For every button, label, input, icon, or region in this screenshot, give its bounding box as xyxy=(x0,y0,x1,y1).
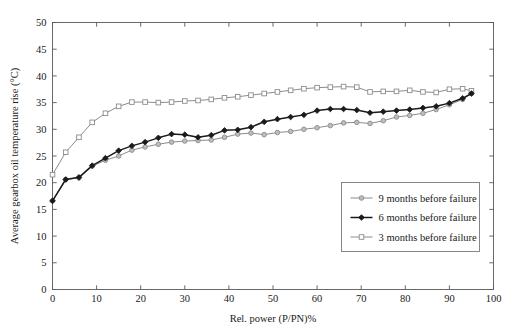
data-point xyxy=(288,114,294,120)
data-point xyxy=(275,130,280,135)
data-point xyxy=(407,88,412,93)
data-point xyxy=(222,95,227,100)
data-point xyxy=(359,196,364,201)
y-tick-label-45: 45 xyxy=(36,44,47,55)
chart-canvas: 0102030405060708090100051015202530354045… xyxy=(0,0,524,335)
x-tick-label-90: 90 xyxy=(444,293,455,304)
y-tick-label-20: 20 xyxy=(36,177,47,188)
data-point xyxy=(209,97,214,102)
data-point xyxy=(196,98,201,103)
data-point xyxy=(381,89,386,94)
data-point xyxy=(235,127,241,133)
figure: 0102030405060708090100051015202530354045… xyxy=(0,0,524,335)
data-point xyxy=(248,124,254,130)
data-point xyxy=(314,108,320,114)
data-point xyxy=(341,84,346,89)
data-point xyxy=(354,107,360,113)
data-point xyxy=(261,119,267,125)
x-tick-label-50: 50 xyxy=(268,293,279,304)
data-point xyxy=(302,127,307,132)
y-tick-label-40: 40 xyxy=(36,71,47,82)
data-point xyxy=(249,131,254,136)
data-point xyxy=(354,120,359,125)
data-point xyxy=(407,113,412,118)
data-point xyxy=(156,100,161,105)
data-point xyxy=(328,85,333,90)
data-point xyxy=(288,129,293,134)
data-point xyxy=(315,85,320,90)
data-point xyxy=(143,100,148,105)
x-tick-label-0: 0 xyxy=(50,293,55,304)
data-point xyxy=(327,106,333,112)
data-point xyxy=(288,88,293,93)
data-point xyxy=(460,86,465,91)
y-axis-title: Average gearbox oil temperature rise (°C… xyxy=(9,67,21,244)
data-point xyxy=(103,111,108,116)
data-point xyxy=(130,100,135,105)
y-tick-label-15: 15 xyxy=(36,204,47,215)
data-point xyxy=(275,90,280,95)
data-point xyxy=(208,132,214,138)
data-point xyxy=(50,172,55,177)
data-point xyxy=(368,121,373,126)
data-point xyxy=(341,121,346,126)
x-tick-label-80: 80 xyxy=(400,293,411,304)
data-point xyxy=(447,87,452,92)
x-tick-label-30: 30 xyxy=(180,293,191,304)
data-point xyxy=(116,148,122,154)
data-point xyxy=(90,120,95,125)
data-point xyxy=(63,150,68,155)
data-point xyxy=(182,132,188,138)
data-point xyxy=(302,86,307,91)
data-point xyxy=(394,115,399,120)
legend-label-1: 9 months before failure xyxy=(379,193,478,204)
y-tick-label-35: 35 xyxy=(36,97,47,108)
data-point xyxy=(169,140,174,145)
x-tick-label-70: 70 xyxy=(356,293,367,304)
data-point xyxy=(183,139,188,144)
data-point xyxy=(262,91,267,96)
series-line xyxy=(53,87,472,175)
y-tick-label-50: 50 xyxy=(36,17,47,28)
data-point xyxy=(368,90,373,95)
data-point xyxy=(169,131,175,137)
data-point xyxy=(262,132,267,137)
data-point xyxy=(394,89,399,94)
x-tick-label-100: 100 xyxy=(486,293,502,304)
data-point xyxy=(235,94,240,99)
y-tick-label-10: 10 xyxy=(36,231,47,242)
data-point xyxy=(183,99,188,104)
data-point xyxy=(341,106,347,112)
data-point xyxy=(328,123,333,128)
data-point xyxy=(275,116,281,122)
data-point xyxy=(381,118,386,123)
y-tick-label-5: 5 xyxy=(41,257,46,268)
data-point xyxy=(301,112,307,118)
data-point xyxy=(421,111,426,116)
data-point xyxy=(142,139,148,145)
x-tick-label-10: 10 xyxy=(91,293,102,304)
data-point xyxy=(359,235,364,240)
y-tick-label-30: 30 xyxy=(36,124,47,135)
data-point xyxy=(394,108,400,114)
data-point xyxy=(77,135,82,140)
data-point xyxy=(380,109,386,115)
data-point xyxy=(116,154,121,159)
data-point xyxy=(116,104,121,109)
x-axis-title: Rel. power (P/PN)% xyxy=(230,313,317,325)
data-point xyxy=(367,110,373,116)
series-3 xyxy=(50,84,474,177)
data-point xyxy=(156,135,162,141)
data-point xyxy=(315,125,320,130)
data-point xyxy=(420,105,426,111)
data-point xyxy=(434,90,439,95)
y-tick-label-25: 25 xyxy=(36,151,47,162)
data-point xyxy=(354,85,359,90)
legend-label-2: 6 months before failure xyxy=(379,212,478,223)
data-point xyxy=(129,143,135,149)
data-point xyxy=(169,100,174,105)
data-point xyxy=(222,128,228,134)
x-tick-label-60: 60 xyxy=(312,293,323,304)
legend-label-3: 3 months before failure xyxy=(379,232,478,243)
x-tick-label-40: 40 xyxy=(224,293,235,304)
